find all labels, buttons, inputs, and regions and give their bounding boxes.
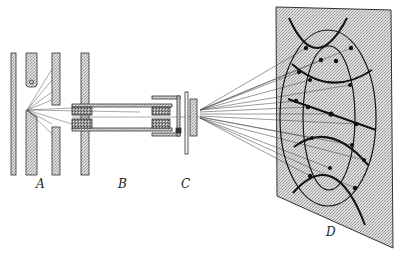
component-a [11, 53, 60, 175]
diagram [0, 0, 401, 254]
label-b: B [118, 177, 127, 191]
label-c: C [181, 177, 190, 191]
label-a: A [36, 177, 45, 191]
component-b [72, 53, 200, 175]
label-d: D [326, 225, 336, 239]
